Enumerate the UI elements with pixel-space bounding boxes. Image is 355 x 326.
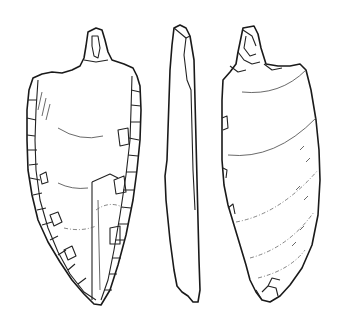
ventral-view — [222, 26, 320, 302]
dorsal-view — [27, 28, 141, 305]
artifact-illustration — [0, 0, 355, 326]
profile-view — [165, 25, 200, 302]
